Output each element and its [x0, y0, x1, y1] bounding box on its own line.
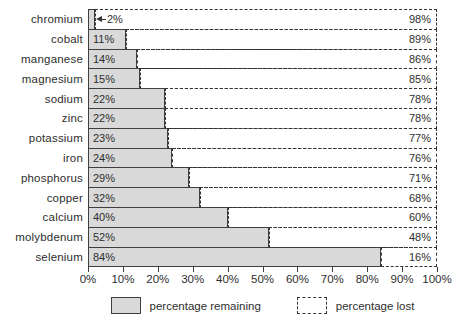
bar-track: 60%40%: [88, 207, 437, 228]
chart-row: potassium77%23%: [0, 128, 437, 149]
lost-value-label: 68%: [409, 192, 431, 204]
lost-value-label: 77%: [409, 132, 431, 144]
bar-track: 16%84%: [88, 247, 437, 268]
category-label: calcium: [0, 207, 88, 228]
remaining-bar: 23%: [88, 128, 168, 149]
lost-value-label: 78%: [409, 93, 431, 105]
remaining-bar: [88, 9, 95, 30]
legend-label-lost: percentage lost: [336, 300, 415, 312]
axis-tick-label: 80%: [356, 273, 379, 285]
axis-tick-label: 10%: [111, 273, 134, 285]
axis-tick-label: 30%: [181, 273, 204, 285]
chart-row: chromium2%98%: [0, 9, 437, 30]
axis-tick-label: 20%: [146, 273, 169, 285]
category-label: phosphorus: [0, 167, 88, 188]
category-label: iron: [0, 148, 88, 169]
category-label: manganese: [0, 49, 88, 70]
lost-value-label: 76%: [409, 152, 431, 164]
category-label: chromium: [0, 9, 88, 30]
axis-tick: [332, 267, 333, 272]
chart-row: iron76%24%: [0, 148, 437, 169]
bar-track: 78%22%: [88, 88, 437, 109]
axis-tick-label: 90%: [391, 273, 414, 285]
bar-track: 71%29%: [88, 167, 437, 188]
bar-track: 85%15%: [88, 68, 437, 89]
bar-track: 68%32%: [88, 187, 437, 208]
lost-box: 71%: [189, 167, 437, 188]
remaining-value-label: 11%: [93, 33, 114, 45]
lost-swatch-icon: [297, 297, 327, 314]
lost-box: 76%: [172, 148, 437, 169]
chart-row: cobalt89%11%: [0, 29, 437, 50]
lost-box: 16%: [381, 247, 437, 268]
remaining-value-label: 32%: [93, 192, 115, 204]
bar-track: 76%24%: [88, 148, 437, 169]
remaining-bar: 22%: [88, 108, 165, 129]
remaining-bar: 84%: [88, 247, 381, 268]
category-label: molybdenum: [0, 227, 88, 248]
axis-tick: [263, 267, 264, 272]
category-label: copper: [0, 187, 88, 208]
axis-tick-label: 0%: [80, 273, 97, 285]
lost-box: 60%: [228, 207, 437, 228]
chart-row: magnesium85%15%: [0, 68, 437, 89]
remaining-value-label: 40%: [93, 211, 115, 223]
category-label: sodium: [0, 88, 88, 109]
chart-row: calcium60%40%: [0, 207, 437, 228]
axis-tick: [123, 267, 124, 272]
axis-tick: [158, 267, 159, 272]
remaining-value-label: 15%: [93, 73, 115, 85]
lost-value-label: 60%: [409, 211, 431, 223]
bar-track: 89%11%: [88, 29, 437, 50]
remaining-value-label: 23%: [93, 132, 115, 144]
chart-row: selenium16%84%: [0, 247, 437, 268]
axis-tick: [402, 267, 403, 272]
axis-tick-label: 70%: [321, 273, 344, 285]
remaining-value-label: 2%: [107, 13, 123, 25]
remaining-bar: 11%: [88, 29, 126, 50]
remaining-value-label: 29%: [93, 172, 115, 184]
chart-row: zinc78%22%: [0, 108, 437, 129]
remaining-value-label: 24%: [93, 152, 115, 164]
remaining-bar: 29%: [88, 167, 189, 188]
lost-box: 89%: [126, 29, 437, 50]
bar-track: 78%22%: [88, 108, 437, 129]
axis-tick: [88, 267, 89, 272]
bar-track: 2%98%: [88, 9, 437, 30]
lost-value-label: 48%: [409, 231, 431, 243]
axis-tick-label: 100%: [422, 273, 451, 285]
lost-box: 86%: [137, 49, 437, 70]
lost-box: 68%: [200, 187, 437, 208]
axis-tick: [367, 267, 368, 272]
legend-item-remaining: percentage remaining: [111, 297, 261, 314]
axis-tick: [228, 267, 229, 272]
legend-item-lost: percentage lost: [297, 297, 415, 314]
lost-box: 78%: [165, 88, 437, 109]
category-label: magnesium: [0, 68, 88, 89]
category-label: selenium: [0, 247, 88, 268]
lost-box: 77%: [168, 128, 437, 149]
lost-value-label: 71%: [409, 172, 431, 184]
category-label: cobalt: [0, 29, 88, 50]
lost-box: 78%: [165, 108, 437, 129]
category-label: potassium: [0, 128, 88, 149]
remaining-value-label: 22%: [93, 93, 115, 105]
axis-tick-label: 40%: [216, 273, 239, 285]
lost-value-label: 85%: [409, 73, 431, 85]
axis-tick-label: 60%: [286, 273, 309, 285]
bar-track: 77%23%: [88, 128, 437, 149]
lost-value-label: 98%: [409, 13, 431, 25]
chart-row: manganese86%14%: [0, 49, 437, 70]
remaining-bar: 40%: [88, 207, 228, 228]
axis-tick-label: 50%: [251, 273, 274, 285]
chart-row: phosphorus71%29%: [0, 167, 437, 188]
bar-track: 86%14%: [88, 49, 437, 70]
lost-value-label: 16%: [409, 251, 431, 263]
legend: percentage remaining percentage lost: [88, 297, 437, 314]
lost-box: 85%: [140, 68, 437, 89]
category-label: zinc: [0, 108, 88, 129]
remaining-swatch-icon: [111, 297, 141, 314]
bar-track: 48%52%: [88, 227, 437, 248]
axis-tick: [437, 267, 438, 272]
remaining-value-label: 22%: [93, 112, 115, 124]
